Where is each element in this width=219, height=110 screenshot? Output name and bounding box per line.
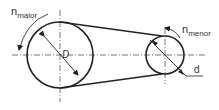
belt-drive-diagram: D d nmaior nmenor <box>0 0 219 110</box>
n-menor-label: nmenor <box>182 23 211 38</box>
n-maior-label: nmaior <box>11 5 37 20</box>
center-lines <box>12 10 205 102</box>
diameter-D-label: D <box>62 49 69 60</box>
diameter-D-arrow <box>44 36 78 75</box>
diameter-d-label: d <box>194 64 200 75</box>
arrow-icon <box>178 69 184 75</box>
